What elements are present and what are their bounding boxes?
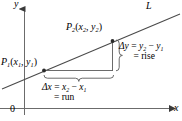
p2-subscript: 2 xyxy=(72,26,75,33)
p1-subscript: 1 xyxy=(7,61,10,68)
p1-x-subscript: 1 xyxy=(18,61,21,68)
line-l-label: L xyxy=(146,1,152,12)
p1-paren-close: ) xyxy=(34,56,37,67)
delta-y-equals: = xyxy=(129,41,139,51)
delta-x-term-x2-subscript: 2 xyxy=(66,87,69,93)
delta-x-annotation: Δx = x2 − x1 = run xyxy=(42,83,86,103)
p2-y-subscript: 2 xyxy=(96,26,99,33)
p2-x-subscript: 2 xyxy=(83,26,86,33)
delta-x-term-x1-subscript: 1 xyxy=(83,87,86,93)
origin-label: 0 xyxy=(10,104,15,115)
p2-y: y xyxy=(91,21,95,32)
delta-x-symbol: Δx xyxy=(42,82,52,92)
delta-y-minus: − xyxy=(146,41,156,51)
delta-x-equals: = xyxy=(52,82,62,92)
p1-y-subscript: 1 xyxy=(31,61,34,68)
delta-y-symbol: Δy xyxy=(119,41,129,51)
delta-x-alias: = run xyxy=(42,93,86,103)
point-p2-label: P2(x2, y2) xyxy=(66,22,102,33)
y-axis-label: y xyxy=(14,0,18,10)
p1-y: y xyxy=(26,56,30,67)
delta-x-minus: − xyxy=(69,82,79,92)
p2-paren-close: ) xyxy=(99,21,102,32)
delta-y-annotation: Δy = y2 − y1 = rise xyxy=(119,42,163,62)
x-axis-label: x xyxy=(174,103,178,114)
point-p2-marker xyxy=(111,39,115,43)
delta-y-term-y2-subscript: 2 xyxy=(143,46,146,52)
slope-diagram-figure: y x 0 L P1(x1, y1) P2(x2, y2) Δy = y2 − … xyxy=(0,0,182,121)
delta-y-alias: = rise xyxy=(125,52,163,62)
point-p1-marker xyxy=(42,69,46,73)
delta-x-brace xyxy=(44,75,114,81)
delta-y-term-y1-subscript: 1 xyxy=(160,46,163,52)
point-p1-label: P1(x1, y1) xyxy=(1,57,37,68)
